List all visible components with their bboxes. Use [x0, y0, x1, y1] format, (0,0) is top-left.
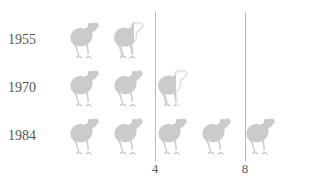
chicken-fill [115, 70, 143, 106]
chicken-fill [115, 22, 143, 58]
chicken-fill [247, 118, 275, 154]
chicken-icon [68, 113, 108, 159]
chicken-fill [159, 118, 187, 154]
icon-row-1955 [0, 17, 316, 63]
icon-row-1970 [0, 65, 316, 111]
axis-tick-label-4: 4 [145, 161, 165, 177]
pictogram-chart: 4 8 1955 1970 1984 [0, 0, 316, 189]
axis-tick-label-8: 8 [235, 161, 255, 177]
chicken-icon [112, 113, 152, 159]
chicken-icon [156, 113, 196, 159]
chicken-icon [200, 113, 240, 159]
chicken-icon [68, 17, 108, 63]
chicken-icon [244, 113, 284, 159]
chicken-icon [112, 65, 152, 111]
chicken-fill [115, 118, 143, 154]
chicken-fill [71, 70, 99, 106]
chicken-fill [203, 118, 231, 154]
chicken-icon [156, 65, 196, 111]
chicken-fill [159, 70, 187, 106]
plot-area: 4 8 1955 1970 1984 [0, 0, 316, 189]
icon-row-1984 [0, 113, 316, 159]
chicken-fill [71, 118, 99, 154]
chicken-fill [71, 22, 99, 58]
chicken-icon [68, 65, 108, 111]
chicken-icon [112, 17, 152, 63]
